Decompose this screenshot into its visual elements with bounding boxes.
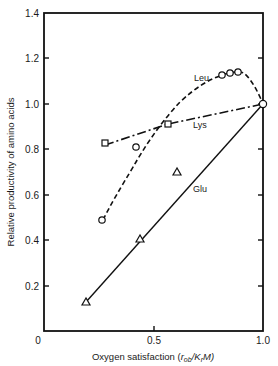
y-tick-1.0: 1.0: [25, 99, 39, 110]
lys-label: Lys: [193, 120, 207, 130]
x-tick-0.5: 0.5: [147, 335, 161, 346]
glu-label: Glu: [193, 184, 207, 194]
y-tick-1.2: 1.2: [25, 53, 39, 64]
x-axis-title: Oxygen satisfaction (rob/KrM): [92, 351, 214, 363]
y-tick-0.2: 0.2: [25, 281, 39, 292]
x-tick-1.0: 1.0: [256, 335, 270, 346]
y-tick-1.4: 1.4: [25, 8, 39, 19]
y-axis-title: Relative productivity of amino acids: [5, 97, 16, 246]
chart-svg: 0.2 0.4 0.6 0.8 1.0 1.2 1.4 0 0.5 1.0 Re…: [0, 0, 278, 366]
y-axis-ticks: [44, 58, 263, 331]
plot-frame: [44, 13, 263, 331]
leu-curve: [103, 72, 263, 220]
y-tick-0.6: 0.6: [25, 190, 39, 201]
x-tick-0: 0: [35, 335, 41, 346]
lys-line: [105, 104, 263, 145]
leu-label: Leu: [194, 73, 209, 83]
y-axis-labels: 0.2 0.4 0.6 0.8 1.0 1.2 1.4: [25, 8, 39, 292]
y-tick-0.4: 0.4: [25, 235, 39, 246]
shared-endpoint-marker: [259, 100, 266, 107]
y-tick-0.8: 0.8: [25, 144, 39, 155]
x-axis-labels: 0 0.5 1.0: [35, 335, 270, 346]
glu-markers: [82, 168, 181, 305]
leu-markers: [99, 69, 241, 223]
